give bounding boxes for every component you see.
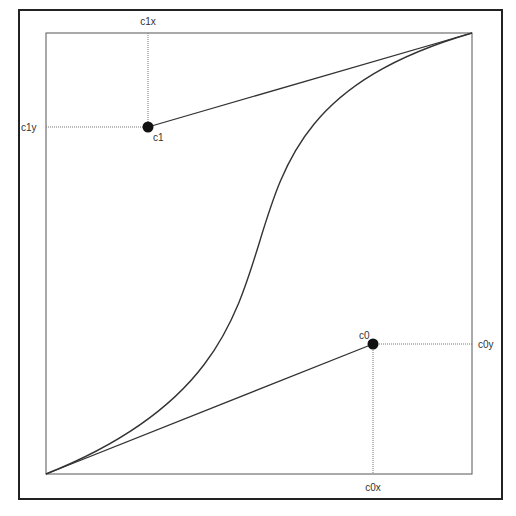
bezier-diagram: c1x c1y c1 c0 c0x c0y xyxy=(0,0,516,516)
c0-label: c0 xyxy=(359,330,370,341)
c0-handle-line xyxy=(46,344,373,474)
c1-control-point[interactable] xyxy=(143,122,154,133)
c1-label: c1 xyxy=(153,132,164,143)
c0y-label: c0y xyxy=(478,339,494,350)
c1y-label: c1y xyxy=(21,122,37,133)
c1-handle-line xyxy=(148,33,472,127)
c1x-label: c1x xyxy=(140,16,156,27)
c0x-label: c0x xyxy=(365,482,381,493)
outer-frame xyxy=(19,10,502,499)
bezier-curve xyxy=(46,33,472,474)
unit-square xyxy=(46,33,472,474)
